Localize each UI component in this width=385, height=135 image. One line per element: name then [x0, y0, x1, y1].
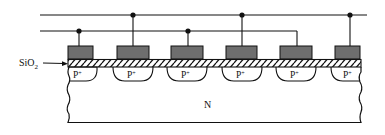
strip-6-connection — [347, 12, 352, 46]
strip-4-connection — [239, 12, 244, 46]
metal-pad-5 — [280, 46, 312, 59]
metal-pad-4 — [226, 46, 257, 59]
strip-detector-diagram: P+ P+ P+ P+ P+ P+ SiO2 N — [0, 0, 385, 135]
oxide-label: SiO2 — [19, 57, 39, 71]
metal-pad-1 — [68, 46, 93, 59]
strip-2-connection — [130, 12, 135, 46]
oxide-arrow-icon — [43, 61, 68, 66]
n-substrate — [67, 67, 362, 123]
strip-3-connection — [185, 28, 190, 46]
oxide-layer — [68, 60, 361, 68]
p-implant-label-1: P+ — [73, 70, 82, 81]
p-implant-label-6: P+ — [343, 70, 352, 81]
p-implant-label-4: P+ — [236, 70, 245, 81]
substrate-label: N — [204, 99, 211, 110]
p-implant-label-2: P+ — [127, 70, 136, 81]
p-implant-label-3: P+ — [181, 70, 190, 81]
metal-pad-3 — [171, 46, 203, 59]
metal-pad-2 — [117, 46, 149, 59]
strip-1-connection — [76, 28, 81, 46]
metal-pad-6 — [335, 46, 360, 59]
p-implant-label-5: P+ — [290, 70, 299, 81]
